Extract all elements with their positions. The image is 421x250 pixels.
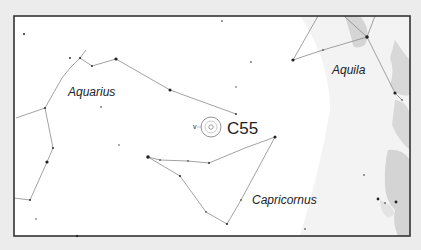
star	[304, 228, 306, 230]
star	[240, 199, 242, 201]
star	[274, 136, 277, 139]
star	[91, 65, 93, 67]
star	[29, 199, 31, 201]
star	[235, 113, 237, 115]
constellation-label-capricornus: Capricornus	[252, 193, 317, 207]
star	[179, 175, 181, 177]
star	[377, 198, 380, 201]
star	[159, 159, 161, 161]
constellation-label-aquila: Aquila	[331, 63, 366, 77]
star	[235, 86, 236, 87]
star	[208, 162, 210, 164]
star	[114, 57, 117, 60]
star	[169, 89, 172, 92]
star	[23, 33, 25, 35]
star	[100, 106, 102, 108]
object-label-c55: C55	[227, 119, 258, 138]
star	[79, 57, 81, 59]
star	[226, 223, 228, 225]
star	[401, 99, 403, 101]
star	[52, 147, 54, 149]
star	[118, 144, 119, 145]
constellation-label-aquarius: Aquarius	[67, 85, 115, 99]
star	[205, 211, 207, 213]
star	[44, 107, 46, 109]
star	[250, 61, 252, 63]
star	[291, 58, 294, 61]
star	[146, 155, 150, 159]
star	[393, 91, 396, 94]
star-chart: v C55 Aquarius Aquila Capricornus	[0, 0, 421, 250]
star	[35, 218, 36, 219]
star	[221, 20, 223, 22]
star	[187, 160, 189, 162]
star	[322, 49, 324, 51]
star	[45, 160, 48, 163]
star	[363, 174, 365, 176]
star	[69, 57, 71, 59]
neighbor-star-label: v	[193, 123, 197, 130]
star-chart-svg: v C55 Aquarius Aquila Capricornus	[0, 0, 421, 250]
star	[384, 202, 386, 204]
star	[395, 201, 398, 204]
star	[365, 35, 369, 39]
